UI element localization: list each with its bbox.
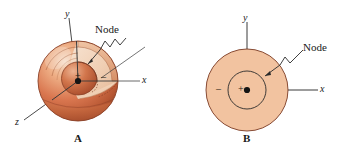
panel-b-node-label: Node: [303, 42, 327, 53]
panel-a-z-axis-label: z: [15, 117, 19, 127]
panel-a-caption: A: [74, 133, 82, 144]
panel-b-node-label-leader: [296, 50, 303, 57]
panel-b-nucleus-dot: [244, 87, 250, 93]
panel-a-graphic: [24, 18, 145, 125]
panel-a-node-label: Node: [95, 24, 119, 35]
panel-b-y-axis-label: y: [243, 13, 247, 23]
panel-a-outer-sign: –: [101, 72, 106, 82]
orbital-node-figure: y x z Node + – A y x Node + – B: [0, 0, 342, 156]
figure-canvas: [0, 0, 342, 156]
panel-a-x-axis-label: x: [142, 75, 146, 85]
panel-b-inner-sign: +: [238, 84, 244, 94]
panel-b-node-leader-squiggle: [280, 57, 296, 65]
panel-b-graphic: [206, 22, 318, 131]
panel-a-inner-sign: +: [75, 71, 81, 81]
panel-b-x-axis-label: x: [320, 84, 324, 94]
panel-a-y-axis-label: y: [65, 9, 69, 19]
panel-a-node-leader-squiggle: [100, 38, 126, 50]
panel-b-outer-sign: –: [216, 84, 221, 94]
panel-b-caption: B: [243, 133, 250, 144]
